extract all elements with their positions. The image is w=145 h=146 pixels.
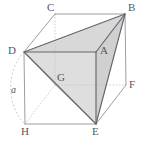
vertex-label-D: D	[8, 45, 16, 56]
vertex-label-B: B	[128, 2, 135, 13]
geometry-figure: C B D A G F H E a	[0, 0, 145, 146]
vertex-label-G: G	[57, 72, 65, 83]
vertex-label-C: C	[47, 2, 54, 13]
edge-length-label-a: a	[11, 85, 16, 95]
shaded-faces	[24, 14, 125, 124]
vertex-label-A: A	[100, 45, 108, 56]
edge-G-H	[25, 85, 55, 124]
edge-B-F	[125, 14, 126, 85]
edge-D-H	[24, 52, 25, 124]
vertex-label-F: F	[129, 79, 135, 90]
vertex-label-E: E	[92, 126, 99, 137]
vertex-label-H: H	[21, 126, 29, 137]
